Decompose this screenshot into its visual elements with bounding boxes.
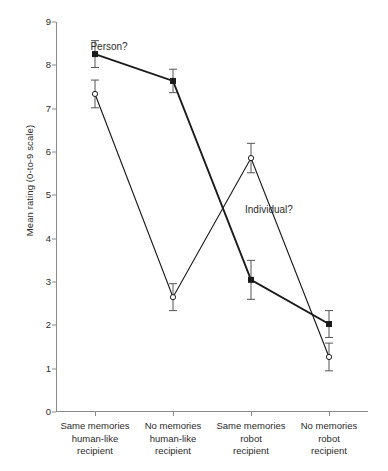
- y-tick-label: 5: [46, 191, 51, 201]
- x-tick-mark: [95, 412, 96, 416]
- data-point-open: [326, 354, 331, 359]
- y-tick-label: 0: [46, 407, 51, 417]
- x-tick-mark: [251, 412, 252, 416]
- chart-figure: Mean rating (0-to-9 scale) 0123456789 Sa…: [0, 0, 388, 471]
- x-tick-label: No memoriesrobotrecipient: [281, 420, 377, 458]
- y-tick-label: 4: [46, 234, 51, 244]
- y-axis-title: Mean rating (0-to-9 scale): [24, 86, 35, 276]
- x-tick-label-line: No memories: [281, 420, 377, 433]
- y-tick-label: 7: [46, 104, 51, 114]
- series-1: [91, 41, 333, 338]
- series-layer: [56, 22, 368, 412]
- series-2: [91, 80, 333, 371]
- data-point-filled: [248, 277, 254, 283]
- data-point-filled: [170, 78, 176, 84]
- x-tick-mark: [173, 412, 174, 416]
- data-point-filled: [326, 321, 332, 327]
- y-tick-label: 6: [46, 147, 51, 157]
- y-tick-label: 2: [46, 321, 51, 331]
- series-line: [95, 94, 329, 357]
- data-point-open: [248, 155, 253, 160]
- y-tick-label: 9: [46, 17, 51, 27]
- y-tick-label: 1: [46, 364, 51, 374]
- series-label-person: Person?: [90, 40, 127, 51]
- plot-area: 0123456789 Same memorieshuman-likerecipi…: [56, 22, 368, 412]
- y-tick-label: 3: [46, 277, 51, 287]
- data-point-open: [170, 295, 175, 300]
- series-line: [95, 54, 329, 324]
- x-tick-label-line: recipient: [281, 445, 377, 458]
- x-tick-mark: [329, 412, 330, 416]
- x-tick-label-line: robot: [281, 433, 377, 446]
- y-tick-label: 8: [46, 61, 51, 71]
- data-point-filled: [92, 51, 98, 57]
- data-point-open: [92, 91, 97, 96]
- series-label-individual: Individual?: [245, 204, 293, 215]
